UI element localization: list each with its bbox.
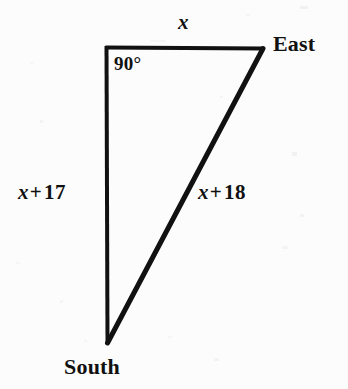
east-vertex-label: East	[273, 33, 315, 55]
left-side-variable: x	[18, 180, 29, 204]
hypotenuse-operator: +	[209, 180, 223, 204]
top-side-label: x	[178, 12, 189, 33]
top-side-line	[106, 48, 264, 49]
triangle-figure: x 90° East x+17 x+18 South	[0, 0, 348, 389]
right-angle-label: 90°	[114, 54, 141, 73]
hypotenuse-number: 18	[223, 180, 247, 204]
left-side-operator: +	[29, 180, 43, 204]
left-side-label: x+17	[18, 182, 67, 203]
south-vertex-label: South	[64, 356, 120, 378]
left-side-number: 17	[43, 180, 67, 204]
hypotenuse-variable: x	[198, 180, 209, 204]
left-side-line	[107, 46, 108, 343]
hypotenuse-label: x+18	[198, 182, 247, 203]
